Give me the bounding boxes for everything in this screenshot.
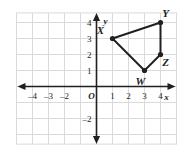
coordinate-plane-figure: –4–3–212344321–2Oxy XYZW — [0, 0, 192, 152]
vertex-label-z: Z — [161, 56, 169, 68]
vertex-point-x — [110, 36, 115, 41]
y-tick-label: 1 — [87, 66, 92, 76]
x-tick-label: 3 — [142, 91, 147, 101]
x-tick-label: 4 — [158, 91, 163, 101]
vertex-point-w — [142, 68, 147, 73]
x-tick-label: –3 — [43, 91, 54, 101]
origin-label: O — [88, 91, 95, 101]
vertex-point-y — [158, 20, 163, 25]
x-tick-label: –4 — [27, 91, 38, 101]
x-tick-label: 1 — [110, 91, 115, 101]
x-tick-label: –2 — [59, 91, 69, 101]
x-tick-label: 2 — [126, 91, 131, 101]
coordinate-plane-svg: –4–3–212344321–2Oxy XYZW — [0, 0, 192, 152]
y-tick-label: 4 — [87, 18, 92, 28]
vertex-label-w: W — [136, 75, 147, 87]
vertex-label-x: X — [96, 24, 105, 36]
y-tick-label: –2 — [82, 114, 92, 124]
y-tick-label: 2 — [87, 50, 92, 60]
y-tick-label: 3 — [87, 34, 92, 44]
x-axis-label: x — [163, 92, 169, 102]
